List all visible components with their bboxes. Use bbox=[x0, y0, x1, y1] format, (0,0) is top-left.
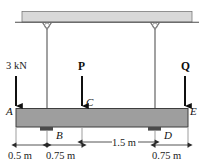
ceiling-bar bbox=[22, 12, 192, 23]
point-label-b: B bbox=[56, 129, 63, 141]
support-block-d bbox=[148, 127, 161, 131]
ceiling-support bbox=[15, 12, 199, 23]
point-label-c: C bbox=[86, 96, 94, 108]
dim-label-ab: 0.5 m bbox=[8, 150, 32, 161]
load-arrow-p: P bbox=[78, 60, 85, 106]
beam-diagram-canvas: 3 kN P Q A B C D E bbox=[0, 0, 207, 163]
dim-label-cd: 1.5 m bbox=[112, 137, 136, 148]
support-block-b bbox=[40, 127, 53, 131]
point-label-d: D bbox=[163, 129, 172, 141]
point-label-a: A bbox=[5, 105, 13, 117]
dim-label-de: 0.75 m bbox=[152, 150, 181, 161]
load-arrow-q: Q bbox=[181, 60, 190, 106]
beam bbox=[16, 109, 188, 131]
load-arrow-a: 3 kN bbox=[6, 60, 27, 106]
load-p-label: P bbox=[78, 60, 85, 72]
hanger-b bbox=[43, 23, 52, 110]
point-label-e: E bbox=[189, 105, 197, 117]
load-q-label: Q bbox=[181, 60, 190, 72]
hanger-d bbox=[151, 23, 160, 110]
load-a-label: 3 kN bbox=[6, 60, 27, 71]
beam-body bbox=[16, 109, 188, 128]
beam-diagram-figure: 3 kN P Q A B C D E bbox=[0, 0, 207, 163]
dimension-lines bbox=[16, 142, 188, 145]
dim-label-bc: 0.75 m bbox=[46, 150, 75, 161]
